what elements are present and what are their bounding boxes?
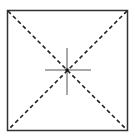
diagram-canvas: [0, 0, 135, 136]
center-point-icon: [66, 69, 69, 72]
